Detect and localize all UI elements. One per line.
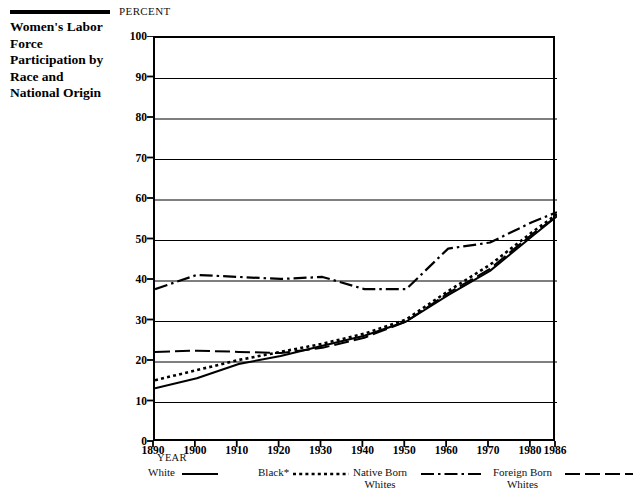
caption-rule xyxy=(10,10,110,14)
x-tick-label: 1986 xyxy=(544,444,567,456)
x-tick-label: 1900 xyxy=(183,444,206,456)
legend-label: Foreign Born xyxy=(493,466,552,478)
x-tick-label: 1960 xyxy=(435,444,458,456)
x-axis-title: YEAR xyxy=(157,452,187,463)
legend-label: White xyxy=(148,466,175,478)
chart-axis-ticks xyxy=(140,36,570,456)
legend-item: Native BornWhites xyxy=(353,466,407,490)
chart-legend: WhiteBlack*Native BornWhitesForeign Born… xyxy=(148,466,568,496)
x-tick-label: 1970 xyxy=(477,444,500,456)
legend-label-line2: Whites xyxy=(493,478,552,490)
x-tick-label: 1950 xyxy=(393,444,416,456)
legend-swatch xyxy=(421,468,485,480)
legend-item: Foreign BornWhites xyxy=(493,466,552,490)
legend-item: Black* xyxy=(258,466,289,478)
page-title: Women's Labor Force Participation by Rac… xyxy=(10,19,110,102)
legend-label: Native Born xyxy=(353,466,407,478)
caption-block: Women's Labor Force Participation by Rac… xyxy=(10,10,110,102)
x-tick-label: 1920 xyxy=(267,444,290,456)
legend-item: White xyxy=(148,466,175,478)
legend-swatch xyxy=(293,468,349,480)
legend-swatch xyxy=(565,468,633,480)
x-axis-tick-labels: 1890190019101920193019401950196019701980… xyxy=(153,444,555,464)
x-tick-label: 1910 xyxy=(225,444,248,456)
legend-label: Black* xyxy=(258,466,289,478)
legend-swatch xyxy=(182,468,218,480)
x-tick-label: 1930 xyxy=(309,444,332,456)
x-tick-label: 1980 xyxy=(518,444,541,456)
y-axis-unit-label: PERCENT xyxy=(119,5,171,17)
x-tick-label: 1940 xyxy=(351,444,374,456)
legend-label-line2: Whites xyxy=(353,478,407,490)
